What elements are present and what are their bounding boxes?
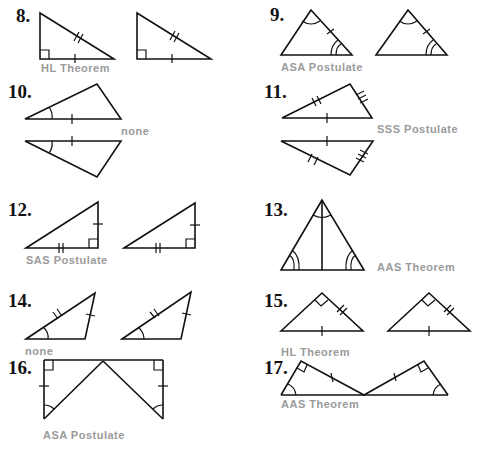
figure-15: [281, 293, 470, 336]
figure-8: [40, 13, 211, 63]
triangle-figures: [0, 0, 485, 468]
figure-14: [26, 292, 191, 339]
figure-10: [25, 84, 121, 177]
figure-9: [281, 10, 447, 55]
figure-13: [281, 200, 364, 270]
figure-17: [281, 361, 448, 395]
figure-11: [281, 84, 373, 175]
figure-12: [26, 202, 200, 253]
figure-16: [39, 360, 168, 419]
